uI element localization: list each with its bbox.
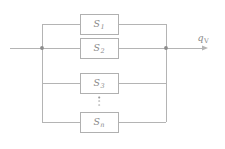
block-subscript-1: 1: [100, 22, 105, 30]
block-label-3: S3: [93, 77, 104, 90]
parallel-connection-diagram: S1 S2 S3 Sn qV: [0, 0, 225, 149]
output-subscript: V: [204, 36, 209, 44]
block-label-n: Sn: [93, 116, 104, 129]
output-flow-label: qV: [197, 32, 208, 45]
block-label-2: S2: [93, 42, 104, 55]
diagram-canvas: [0, 0, 225, 149]
output-arrowhead-icon: [202, 46, 208, 51]
block-symbol-3: S: [93, 77, 100, 88]
block-subscript-3: 3: [100, 81, 105, 89]
vertical-ellipsis-icon: [98, 96, 100, 105]
block-subscript-2: 2: [100, 46, 105, 54]
block-label-1: S1: [93, 18, 104, 31]
block-symbol-2: S: [93, 42, 100, 53]
output-junction-node: [164, 46, 168, 50]
block-symbol-n: S: [93, 116, 100, 127]
ellipsis-dot: [98, 100, 100, 102]
ellipsis-dot: [98, 96, 100, 98]
block-subscript-n: n: [100, 120, 105, 128]
block-symbol-1: S: [93, 18, 100, 29]
input-junction-node: [40, 46, 44, 50]
ellipsis-dot: [98, 104, 100, 106]
